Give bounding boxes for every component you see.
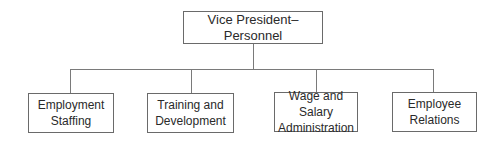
root-connector: [253, 44, 254, 69]
node-label: Employment Staffing: [38, 97, 105, 129]
connector-training-development: [191, 69, 192, 93]
node-employment-staffing: Employment Staffing: [28, 93, 114, 133]
node-vice-president-personnel: Vice President–Personnel: [183, 11, 323, 44]
node-employee-relations: Employee Relations: [392, 92, 477, 132]
node-label: Employee Relations: [408, 96, 461, 128]
node-label: Training and Development: [155, 97, 226, 129]
connector-employee-relations: [433, 69, 434, 92]
connector-employment-staffing: [70, 69, 71, 93]
horizontal-bus: [70, 69, 434, 70]
node-label: Wage and Salary Administration: [275, 88, 357, 136]
node-training-development: Training and Development: [147, 93, 234, 133]
node-wage-salary-administration: Wage and Salary Administration: [274, 92, 358, 132]
node-label: Vice President–Personnel: [184, 12, 322, 44]
